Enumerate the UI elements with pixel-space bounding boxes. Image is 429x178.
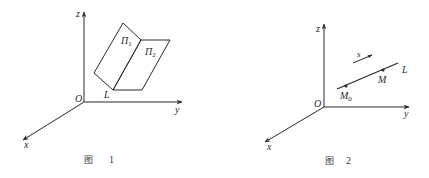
line-l-label-2: L (401, 64, 408, 75)
axes-2: z y x O (265, 23, 409, 152)
z-axis-label-2: z (315, 23, 320, 34)
caption-1-prefix: 图 (84, 155, 93, 165)
line-l-label-1: L (103, 89, 110, 100)
x-axis-1 (23, 102, 84, 140)
point-m0-dot (344, 84, 347, 87)
y-axis-label-1: y (174, 104, 180, 115)
diagram-canvas: z y x O Π1 Π2 L 图 1 z (0, 0, 429, 178)
line-l: L (337, 63, 408, 89)
caption-2: 图 2 (325, 155, 351, 166)
plane-pi1: Π1 (94, 23, 141, 90)
axes-1: z y x O (23, 8, 182, 150)
point-m0-label: M0 (339, 90, 352, 103)
plane-pi1-label: Π1 (120, 35, 132, 48)
origin-label-2: O (314, 98, 321, 109)
x-axis-label-1: x (23, 139, 29, 150)
caption-1-number: 1 (109, 154, 114, 165)
plane-pi2-label: Π2 (144, 46, 156, 59)
x-axis-2 (265, 107, 324, 142)
caption-1: 图 1 (84, 154, 114, 165)
figure-2: z y x O s L M0 M 图 2 (265, 23, 409, 166)
point-m-dot (381, 68, 384, 71)
z-axis-label-1: z (75, 8, 80, 19)
origin-label-1: O (75, 93, 82, 104)
y-axis-label-2: y (403, 108, 409, 119)
direction-vector-s: s (353, 49, 372, 63)
caption-2-prefix: 图 (325, 156, 334, 166)
x-axis-label-2: x (266, 141, 272, 152)
vector-s-label: s (357, 49, 361, 59)
plane-pi2: Π2 (113, 40, 170, 90)
vector-s-arrow (353, 55, 372, 63)
point-m-label: M (377, 74, 387, 85)
figure-1: z y x O Π1 Π2 L 图 1 (23, 8, 182, 165)
caption-2-number: 2 (346, 155, 351, 166)
